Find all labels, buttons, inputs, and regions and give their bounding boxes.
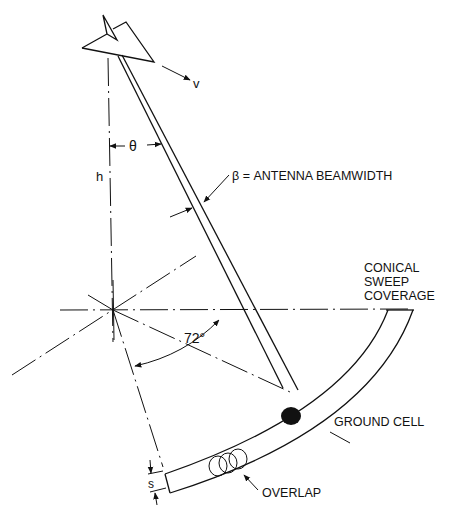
beamwidth-arrow-right [204,175,229,202]
overlap-label: OVERLAP [262,486,321,500]
conical-sweep-diagram: v h θ β = ANTENNA BEAMWIDTH 72° GROUND C… [0,0,449,521]
diagonal-axis-1 [12,256,196,375]
angle-72-label: 72° [184,330,205,346]
theta-arrow-right [147,144,161,145]
ground-cell-label: GROUND CELL [334,415,424,429]
coverage-label-2: SWEEP [364,275,409,289]
spacing-label: s [148,477,154,491]
overlap-arrow [244,475,258,490]
nadir-line [108,58,113,342]
height-label: h [96,169,103,184]
sweep-edge-line [113,310,163,467]
center-cross-diag [88,295,113,310]
ground-cell-leader [330,432,350,443]
diagonal-axis-2 [113,310,290,392]
ground-cell [281,407,301,425]
beamwidth-arrow-left [170,208,192,217]
coverage-label-1: CONICAL [364,261,420,275]
antenna-beam [118,55,298,390]
velocity-label: v [193,76,200,91]
theta-label: θ [129,138,137,154]
velocity-arrow [162,66,190,80]
beamwidth-label: β = ANTENNA BEAMWIDTH [232,169,392,183]
aircraft-icon [82,15,154,62]
angle-72-arc [135,320,219,366]
coverage-label-3: COVERAGE [364,289,435,303]
